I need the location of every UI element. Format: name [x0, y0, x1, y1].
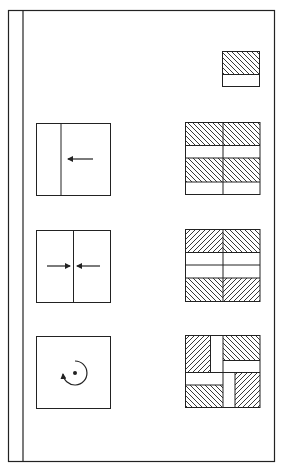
- row-translation: [37, 123, 261, 196]
- legend-tile: [223, 52, 260, 87]
- rotation-result-tiling: [186, 336, 261, 408]
- row-rotation: [37, 336, 261, 409]
- rotation-center-dot: [73, 371, 77, 375]
- mirror-result-tiling: [186, 230, 261, 302]
- row-mirror: [37, 230, 261, 303]
- diagram-canvas: [0, 0, 285, 467]
- rotation-operation-box: [37, 337, 111, 409]
- translation-operation-box: [37, 124, 111, 196]
- translation-result-tiling: [186, 123, 261, 195]
- mirror-operation-box: [37, 231, 111, 303]
